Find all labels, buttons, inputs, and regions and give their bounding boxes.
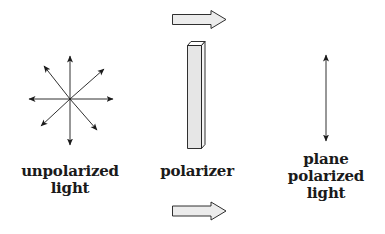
label-line: light [14,180,126,197]
label-line: polarizer [150,163,244,180]
label-plane-polarized-light: plane polarized light [272,151,380,202]
label-polarizer: polarizer [150,163,244,180]
label-line: plane [272,151,380,168]
label-unpolarized-light: unpolarized light [14,163,126,197]
eight-direction-arrows-icon [29,56,113,145]
polarizer-bar-icon [188,42,206,149]
label-line: light [272,185,380,202]
label-line: polarized [272,168,380,185]
label-line: unpolarized [14,163,126,180]
block-arrow-right-icon [173,11,227,29]
block-arrow-right-icon [173,202,227,220]
